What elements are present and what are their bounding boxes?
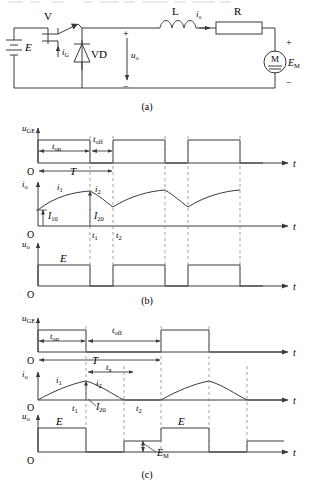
output-voltage-label: uo [131,50,139,61]
wave-b-voltage-pulse-train [38,265,263,286]
wave-c-t2-label: t2 [136,403,142,414]
wave-b-toff-label: toff [93,134,104,145]
wave-b-origin-label: O [27,166,34,177]
wave-b-i1-label: i1 [57,182,63,193]
uo-plus-sign: + [123,28,129,39]
wave-b-current-origin-label: O [27,229,34,240]
wave-c-dashed-guides [86,326,247,452]
wave-b-i2-label: i2 [95,184,101,195]
resistor-symbol [216,22,262,34]
wave-c-voltage-time-label: t [293,447,296,458]
wave-c-gate-axis-label: uGE [22,313,35,324]
caption-c: (c) [141,469,152,481]
inductor-symbol [160,21,196,29]
wave-b-current [36,182,288,226]
inductor-label: L [172,5,179,17]
top-cropped-text [8,1,230,3]
wave-c-period-label: T [92,354,99,366]
wave-c-ton-label: ton [50,331,60,342]
wave-c-current-axis-label: io [22,369,28,380]
caption-b: (b) [141,295,153,307]
figure-root: E V iG VD + − uo L io R [0,0,312,483]
wave-c-current-origin-label: O [27,402,34,413]
circuit-diagram [14,28,275,88]
wire-source-bottom [14,58,82,88]
wave-c-i2-label: i2 [96,378,102,389]
wave-c-gate-time-label: t [293,347,296,358]
wave-b-voltage [38,243,288,286]
motor-minus-sign: − [286,77,292,88]
wave-b-gate-time-label: t [293,158,296,169]
wave-b-current-time-label: t [293,221,296,232]
figure-svg: E V iG VD + − uo L io R [0,0,312,483]
igbt-switch-symbol [42,24,82,47]
wave-b-current-axis-label: io [22,179,28,190]
wave-c-current [38,372,288,400]
wave-b-voltage-origin-label: O [27,289,34,300]
dc-source-symbol [6,40,22,58]
wave-b-period-label: T [70,165,77,177]
wave-b-I10-label: I10 [47,210,58,222]
wave-c-EM-leader [144,444,156,452]
uo-minus-sign: − [123,81,129,92]
wave-c-E-first-label: E [55,415,63,427]
wave-b-E-label: E [59,252,67,264]
wave-b-t1-label: t1 [92,230,98,241]
wave-b-I20-label: I20 [93,210,104,222]
source-label: E [24,41,32,53]
wave-c-toff-label: toff [112,325,123,336]
wave-b-gate-pulse-train [38,140,263,163]
wave-c-timing-dims [39,341,160,372]
wave-c-voltage-origin-label: O [27,455,34,466]
switch-label: V [44,10,52,22]
wave-c-I20-label: I20 [95,401,106,413]
wave-c-gate [38,318,288,352]
wave-c-i1-label: i1 [56,375,62,386]
wave-b-gate-axis-label: uGE [22,123,35,134]
resistor-label: R [234,5,242,17]
wave-c-EM-label: EM [156,447,169,459]
wave-b-current-curve [38,190,240,210]
wave-b-gate [38,128,288,163]
wire-resistor-to-motor [262,28,275,52]
motor-plus-sign: + [286,37,292,48]
caption-a: (a) [141,101,152,113]
wave-c-E-second-label: E [177,415,185,427]
wave-b-voltage-time-label: t [293,281,296,292]
wave-c-tx-label: tx [106,362,113,373]
wave-c-current-time-label: t [293,395,296,406]
wave-c-t1-label: t1 [72,403,78,414]
diode-label: VD [91,48,107,60]
motor-emf-label: EM [287,57,300,69]
motor-label: M [271,54,279,64]
wave-b-t2-label: t2 [116,230,122,241]
output-current-label: io [196,9,202,20]
wave-c-origin-label: O [27,355,34,366]
wave-b-ton-label: ton [52,141,62,152]
wave-b-voltage-axis-label: uo [22,239,30,250]
gate-current-label: iG [62,47,70,58]
